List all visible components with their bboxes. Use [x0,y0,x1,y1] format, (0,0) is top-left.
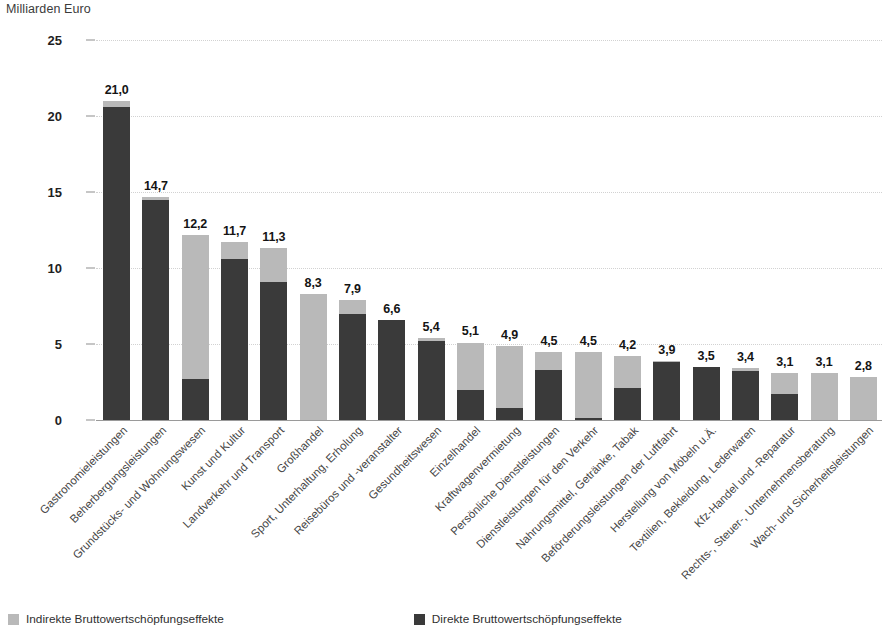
y-axis-tick-label: 5 [24,337,62,352]
bars-group: 21,014,712,211,711,38,37,96,65,45,14,94,… [96,40,882,420]
legend-label: Direkte Bruttowertschöpfungseffekte [432,612,622,626]
bar-value-label: 21,0 [105,83,129,97]
bar-segment-indirect [221,242,248,259]
bar-value-label: 11,7 [223,224,246,238]
x-axis-label-text: Gesundheitswesen [366,424,444,502]
bar-value-label: 7,9 [344,282,361,296]
y-tick-mark-10 [86,268,95,269]
y-axis-tick-label: 25 [24,33,62,48]
bar-segment-indirect [103,101,130,107]
y-tick-mark-0 [86,420,95,421]
y-axis-tick-label: 10 [24,261,62,276]
y-axis-tick-label: 20 [24,109,62,124]
bar-value-label: 8,3 [305,276,322,290]
bar-value-label: 14,7 [144,179,168,193]
bar-1[interactable] [103,101,130,420]
legend-swatch-direct-icon [414,614,425,625]
x-axis-category-labels: GastronomieleistungenBeherbergungsleistu… [96,424,893,614]
y-tick-mark-20 [86,116,95,117]
y-tick-mark-15 [86,192,95,193]
bar-value-label: 4,5 [540,334,557,348]
bar-value-label: 5,4 [423,320,440,334]
legend-item-direct[interactable]: Direkte Bruttowertschöpfungseffekte [414,612,622,626]
bar-value-label: 12,2 [183,217,207,231]
y-axis-unit-label: Milliarden Euro [6,2,91,16]
bar-segment-indirect [339,300,366,314]
bar-value-label: 6,6 [383,302,400,316]
legend-label: Indirekte Bruttowertschöpfungseffekte [26,612,224,626]
bar-segment-indirect [260,248,287,281]
y-axis-tick-label: 15 [24,185,62,200]
bar-segment-indirect [535,352,562,370]
bar-segment-direct [103,107,130,420]
y-tick-mark-5 [86,344,95,345]
y-tick-mark-25 [86,40,95,41]
bar-value-label: 11,3 [262,230,285,244]
legend-swatch-indirect-icon [8,614,19,625]
legend-item-indirect[interactable]: Indirekte Bruttowertschöpfungseffekte [8,612,224,626]
bar-chart: Milliarden Euro 0510152025 21,014,712,21… [0,0,893,635]
y-axis-tick-label: 0 [24,413,62,428]
bar-segment-indirect [142,197,169,200]
chart-legend: Indirekte BruttowertschöpfungseffekteDir… [8,612,622,626]
